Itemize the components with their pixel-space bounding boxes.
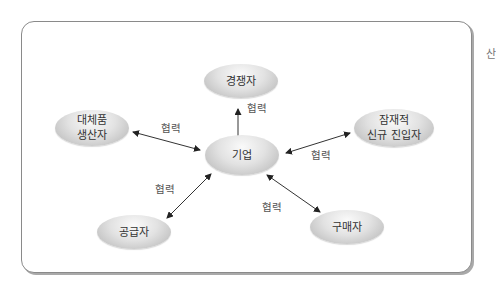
edge-label-top: 협력	[247, 100, 267, 115]
node-label-line2: 생산자	[77, 128, 107, 143]
edge-label-right: 협력	[311, 147, 331, 162]
edge-label-bottom-left: 협력	[155, 181, 175, 196]
node-competitor: 경쟁자	[204, 64, 278, 98]
node-label: 구매자	[332, 220, 362, 235]
node-label-line1: 대체품	[77, 113, 107, 128]
node-label: 기업	[232, 148, 252, 163]
node-supplier: 공급자	[97, 215, 171, 249]
node-label-line2: 신규 진입자	[367, 128, 421, 143]
node-potential-entrant: 잠재적 신규 진입자	[354, 109, 434, 147]
node-label-line1: 잠재적	[379, 113, 409, 128]
node-substitute-producer: 대체품 생산자	[55, 110, 129, 146]
node-label: 공급자	[119, 225, 149, 240]
edge-label-bottom-right: 협력	[262, 199, 282, 214]
clipped-text: 산	[486, 45, 496, 61]
edge-label-left: 협력	[161, 120, 181, 135]
node-buyer: 구매자	[310, 210, 384, 244]
node-label: 경쟁자	[226, 74, 256, 89]
node-company: 기업	[205, 135, 279, 175]
